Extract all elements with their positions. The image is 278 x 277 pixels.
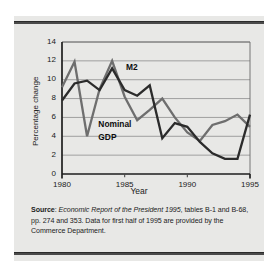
y-tick-label: 6 (40, 112, 56, 121)
source-note-title: Economic Report of the President 1995 (59, 206, 181, 214)
y-tick-label: 8 (40, 93, 56, 102)
source-note: Source: Economic Report of the President… (31, 205, 249, 237)
series-line-m2 (62, 61, 250, 141)
figure-top-rule (14, 21, 264, 24)
x-tick-label: 1990 (172, 180, 202, 189)
source-note-label: Source (31, 206, 55, 214)
figure-bottom-rule (14, 252, 264, 255)
y-tick-label: 0 (40, 169, 56, 178)
series-line-nominal-gdp (62, 68, 250, 159)
y-tick-label: 12 (40, 55, 56, 64)
x-tick-label: 1985 (110, 180, 140, 189)
data-series-group (62, 61, 250, 159)
series-annotation: GDP (98, 132, 116, 142)
x-tick-label: 1980 (47, 180, 77, 189)
x-tick-label: 1995 (235, 180, 265, 189)
plot-area: 14121086420 1980198519901995 M2NominalGD… (14, 30, 264, 188)
y-tick-label: 4 (40, 131, 56, 140)
y-tick-label: 2 (40, 150, 56, 159)
y-tick-label: 10 (40, 74, 56, 83)
chart-svg (14, 30, 264, 188)
figure-container: Percentage change Year 14121086420 19801… (14, 16, 264, 261)
y-tick-label: 14 (40, 37, 56, 46)
series-annotation: Nominal (98, 119, 131, 129)
gridlines-group (62, 42, 250, 155)
series-annotation: M2 (126, 62, 138, 72)
